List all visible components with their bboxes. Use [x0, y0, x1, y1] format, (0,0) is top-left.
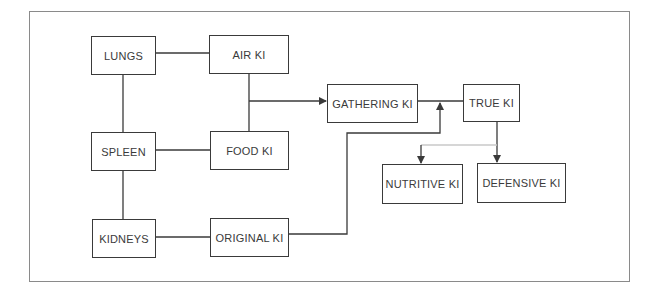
node-label: FOOD KI: [226, 145, 273, 157]
node-food-ki: FOOD KI: [210, 131, 289, 170]
node-label: SPLEEN: [101, 146, 146, 158]
node-gathering-ki: GATHERING KI: [327, 84, 418, 123]
node-label: AIR KI: [233, 49, 266, 61]
node-lungs: LUNGS: [91, 36, 156, 75]
node-label: KIDNEYS: [99, 233, 149, 245]
node-label: ORIGINAL KI: [216, 232, 284, 244]
node-spleen: SPLEEN: [91, 132, 156, 171]
node-label: DEFENSIVE KI: [482, 177, 560, 189]
node-label: NUTRITIVE KI: [386, 178, 460, 190]
node-true-ki: TRUE KI: [463, 84, 520, 122]
node-label: GATHERING KI: [332, 98, 412, 110]
node-air-ki: AIR KI: [209, 35, 289, 74]
node-kidneys: KIDNEYS: [92, 219, 156, 258]
node-label: LUNGS: [104, 50, 143, 62]
node-original-ki: ORIGINAL KI: [210, 218, 289, 257]
node-nutritive-ki: NUTRITIVE KI: [382, 164, 463, 204]
node-defensive-ki: DEFENSIVE KI: [477, 163, 566, 203]
node-label: TRUE KI: [469, 97, 514, 109]
